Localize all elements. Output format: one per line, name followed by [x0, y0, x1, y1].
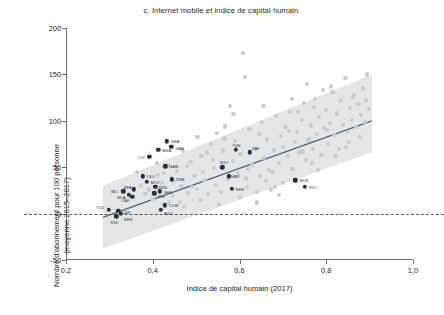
- scatter-point-other: [202, 178, 206, 182]
- scatter-point-other: [292, 140, 296, 144]
- scatter-point-other: [324, 108, 328, 112]
- scatter-point-other: [299, 118, 303, 122]
- scatter-point-other: [345, 130, 349, 134]
- country-code-label: ZAF: [252, 146, 260, 151]
- scatter-point-other: [237, 195, 241, 199]
- scatter-point-other: [348, 106, 352, 110]
- scatter-point-other: [354, 125, 358, 129]
- scatter-point-other: [296, 109, 300, 113]
- country-code-label: CIV: [138, 154, 145, 159]
- scatter-point-country: [107, 208, 111, 212]
- country-code-label: KEN: [236, 186, 244, 191]
- scatter-point-other: [238, 152, 242, 156]
- chart-title: c. Internet mobile et indice de capital …: [0, 6, 442, 15]
- scatter-point-country: [130, 195, 134, 199]
- scatter-point-other: [328, 84, 332, 88]
- scatter-point-other: [228, 104, 232, 108]
- scatter-point-other: [178, 199, 182, 203]
- x-tick: [153, 260, 154, 264]
- y-tick-label: 150: [49, 70, 61, 79]
- scatter-point-other: [312, 105, 316, 109]
- scatter-point-other: [274, 114, 278, 118]
- y-axis-title: Nombre d'abonnement pour 100 personne (m…: [52, 144, 72, 287]
- y-axis-title-line2: (moyenne 2015–2017): [62, 144, 72, 287]
- country-code-label: TCD: [96, 204, 104, 209]
- scatter-point-other: [220, 148, 224, 152]
- scatter-point-country: [163, 203, 167, 207]
- scatter-point-other: [330, 90, 334, 94]
- scatter-point-country: [114, 214, 118, 218]
- scatter-point-other: [281, 181, 285, 185]
- scatter-point-other: [315, 168, 319, 172]
- scatter-point-other: [350, 118, 354, 122]
- scatter-point-other: [245, 185, 249, 189]
- scatter-point-other: [182, 205, 186, 209]
- scatter-point-other: [246, 167, 250, 171]
- scatter-point-other: [257, 132, 261, 136]
- scatter-point-other: [326, 142, 330, 146]
- country-code-label: SEN: [164, 190, 172, 195]
- scatter-point-other: [281, 145, 285, 149]
- scatter-point-country: [153, 184, 157, 188]
- country-code-label: NER: [124, 216, 133, 221]
- scatter-point-other: [358, 134, 362, 138]
- scatter-point-other: [184, 164, 188, 168]
- scatter-point-country: [164, 139, 168, 143]
- scatter-point-other: [295, 130, 299, 134]
- scatter-point-other: [309, 123, 313, 127]
- scatter-point-other: [300, 149, 304, 153]
- country-code-label: LSO: [147, 174, 155, 179]
- scatter-point-other: [215, 131, 219, 135]
- scatter-point-country: [234, 147, 238, 151]
- scatter-point-other: [195, 134, 199, 138]
- scatter-point-other: [217, 202, 221, 206]
- scatter-point-other: [305, 82, 309, 86]
- scatter-point-other: [335, 111, 339, 115]
- scatter-point-other: [147, 187, 151, 191]
- scatter-point-other: [258, 173, 262, 177]
- y-tick-label: 200: [49, 24, 61, 33]
- scatter-point-country: [169, 145, 173, 149]
- scatter-point-other: [270, 170, 274, 174]
- scatter-point-other: [367, 107, 371, 111]
- scatter-point-other: [175, 169, 179, 173]
- plot-area: -50050100150200 0,20,40,60,81,0 TCDSSDLB…: [66, 28, 413, 260]
- x-tick: [326, 260, 327, 264]
- scatter-point-other: [328, 121, 332, 125]
- scatter-point-other: [279, 134, 283, 138]
- x-tick: [240, 260, 241, 264]
- scatter-point-other: [255, 190, 259, 194]
- scatter-point-other: [214, 183, 218, 187]
- scatter-point-country: [144, 180, 148, 184]
- scatter-point-country: [152, 191, 156, 195]
- scatter-point-other: [223, 124, 227, 128]
- scatter-point-other: [332, 133, 336, 137]
- scatter-point-country: [119, 211, 123, 215]
- country-code-label: AGO: [164, 210, 173, 215]
- scatter-point-other: [243, 176, 247, 180]
- scatter-point-other: [315, 132, 319, 136]
- country-code-label: MUS: [299, 178, 308, 183]
- scatter-point-other: [358, 113, 362, 117]
- country-code-label: GAB: [175, 145, 184, 150]
- scatter-point-other: [317, 115, 321, 119]
- scatter-point-other: [302, 101, 306, 105]
- scatter-point-country: [293, 178, 297, 182]
- scatter-point-country: [229, 186, 233, 190]
- scatter-point-other: [304, 158, 308, 162]
- scatter-point-other: [222, 136, 226, 140]
- scatter-point-country: [163, 164, 167, 168]
- scatter-point-other: [365, 72, 369, 76]
- scatter-point-other: [192, 173, 196, 177]
- scatter-points: TCDSSDLBRNERMLINGACAFBFALSOMOZCIVBWAGHAG…: [66, 28, 413, 260]
- scatter-point-other: [325, 128, 329, 132]
- scatter-point-other: [250, 162, 254, 166]
- scatter-point-other: [337, 147, 341, 151]
- scatter-point-other: [289, 96, 293, 100]
- scatter-point-other: [333, 154, 337, 158]
- country-code-label: EGY: [220, 160, 229, 165]
- scatter-point-other: [321, 88, 325, 92]
- scatter-point-other: [190, 185, 194, 189]
- scatter-point-country: [220, 165, 224, 169]
